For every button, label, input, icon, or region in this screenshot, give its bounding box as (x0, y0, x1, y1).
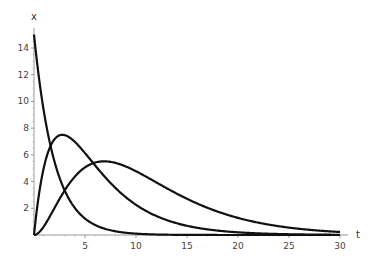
y-tick-label: 12 (18, 70, 29, 80)
kinetics-line-chart: 51015202530 2468101214 t x (0, 0, 379, 265)
series-line-curve-3 (34, 161, 340, 235)
y-ticks: 2468101214 (18, 35, 34, 229)
y-tick-label: 6 (23, 150, 29, 160)
axes: 51015202530 2468101214 t x (18, 11, 360, 251)
y-tick-label: 10 (18, 96, 30, 106)
series-line-curve-1 (34, 35, 340, 235)
x-tick-label: 25 (283, 241, 294, 251)
x-tick-label: 30 (334, 241, 346, 251)
x-tick-label: 20 (232, 241, 244, 251)
y-tick-label: 14 (18, 43, 30, 53)
y-axis-label: x (31, 11, 37, 22)
y-tick-label: 2 (23, 203, 29, 213)
x-axis-label: t (356, 229, 360, 240)
series-line-curve-2 (34, 135, 340, 235)
x-tick-label: 10 (130, 241, 142, 251)
y-tick-label: 4 (23, 177, 29, 187)
x-tick-label: 15 (181, 241, 192, 251)
x-tick-label: 5 (82, 241, 88, 251)
series-group (34, 35, 340, 235)
x-ticks: 51015202530 (44, 235, 346, 251)
y-tick-label: 8 (23, 123, 29, 133)
